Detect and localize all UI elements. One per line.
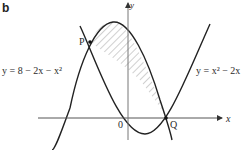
curve-1-equation: y = 8 − 2x − x² bbox=[2, 65, 62, 76]
curve-downward-parabola-left-tail bbox=[52, 108, 70, 150]
origin-label: 0 bbox=[118, 119, 123, 130]
curve-2-equation: y = x² − 2x bbox=[196, 65, 240, 76]
part-label: b bbox=[2, 1, 9, 15]
graph-diagram: b y x 0 P Q y = 8 − 2x − x² y = x² − 2x bbox=[0, 0, 244, 150]
point-q bbox=[164, 116, 168, 120]
x-axis-label: x bbox=[225, 113, 231, 124]
point-p-label: P bbox=[79, 36, 85, 47]
point-q-label: Q bbox=[170, 119, 178, 130]
y-axis-label: y bbox=[129, 0, 134, 10]
point-p bbox=[88, 40, 92, 44]
